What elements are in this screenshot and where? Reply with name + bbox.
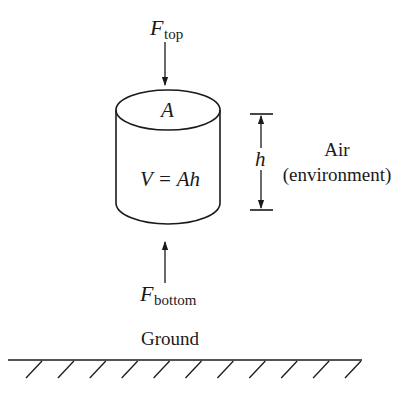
- ground-hatch-mark: [90, 361, 106, 378]
- ground-hatch-mark: [26, 361, 42, 378]
- force-bottom-symbol: F: [139, 281, 154, 306]
- ground-hatch-mark: [186, 361, 202, 378]
- environment-label: Air (environment): [283, 139, 392, 186]
- cylinder: A V = Ah: [116, 90, 220, 224]
- ground-hatch-mark: [345, 361, 361, 378]
- environment-line1: Air: [324, 139, 350, 160]
- diagram-canvas: F top A V = Ah h Air (environment) F bot…: [0, 0, 397, 402]
- ground-hatch-mark: [281, 361, 297, 378]
- force-bottom-subscript: bottom: [154, 292, 197, 308]
- environment-line2: (environment): [283, 164, 392, 186]
- ground-hatch-mark: [313, 361, 329, 378]
- ground-hatching: [26, 361, 361, 378]
- ground-hatch-mark: [154, 361, 170, 378]
- force-top-subscript: top: [164, 26, 183, 42]
- force-top-symbol: F: [149, 15, 164, 40]
- ground-hatch-mark: [122, 361, 138, 378]
- ground-label: Ground: [141, 328, 200, 349]
- ground-hatch-mark: [58, 361, 74, 378]
- cylinder-bottom-curve: [116, 203, 220, 224]
- force-bottom-label: F bottom: [139, 281, 197, 308]
- height-label: h: [255, 147, 266, 171]
- volume-label: V = Ah: [140, 167, 200, 191]
- force-top-label: F top: [149, 15, 183, 42]
- ground-hatch-mark: [217, 361, 233, 378]
- ground-hatch-mark: [249, 361, 265, 378]
- area-label: A: [159, 98, 174, 122]
- height-dimension: h: [250, 114, 273, 210]
